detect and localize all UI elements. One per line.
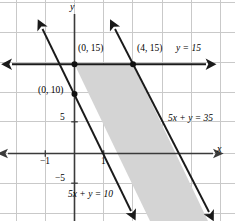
point-0-15 [72,61,78,67]
point-label-0-15: (0, 15) [78,44,103,54]
x-axis-label: x [217,144,221,154]
point-label-0-10: (0, 10) [38,86,63,96]
equation-label-5x-y-35: 5x + y = 35 [168,114,213,124]
graph-figure: (0, 15) (4, 15) (0, 10) y = 15 5x + y = … [0,0,235,221]
coordinate-plot [0,0,235,221]
equation-label-5x-y-10: 5x + y = 10 [68,190,113,200]
equation-label-y-15: y = 15 [176,44,201,54]
point-label-4-15: (4, 15) [137,44,162,54]
tick-label-1: 1 [101,157,106,167]
tick-label-5: 5 [60,113,65,123]
point-4-15 [130,61,136,67]
tick-label-neg-5: −5 [55,174,65,184]
tick-label-neg-1: −1 [40,157,50,167]
y-axis-label: y [70,2,74,12]
point-0-10 [72,91,78,97]
